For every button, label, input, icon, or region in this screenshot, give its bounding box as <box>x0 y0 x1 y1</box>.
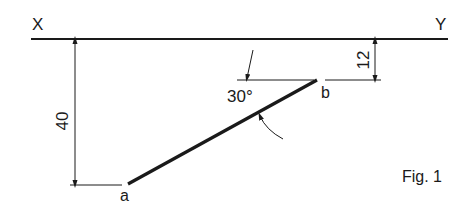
point-b-label: b <box>321 84 330 101</box>
dimension-40-label: 40 <box>53 112 72 131</box>
y-label: Y <box>435 15 446 34</box>
projection-diagram: X Y 40 12 a b 30° Fig. 1 <box>0 0 473 218</box>
angle-arc <box>260 116 283 139</box>
figure-caption: Fig. 1 <box>402 168 442 185</box>
angle-arrow-top <box>247 50 253 78</box>
angle-label: 30° <box>227 87 253 106</box>
x-label: X <box>32 15 43 34</box>
line-ab <box>128 80 317 184</box>
point-a-label: a <box>120 187 129 204</box>
dimension-12-label: 12 <box>354 51 373 70</box>
